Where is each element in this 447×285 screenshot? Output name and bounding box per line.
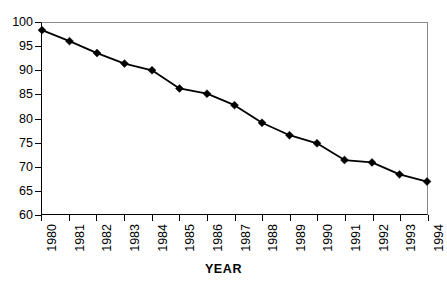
x-tick-label: 1986 [212, 224, 225, 252]
x-tick-label: 1984 [157, 224, 170, 252]
x-tick-mark [207, 215, 208, 221]
x-tick-mark [290, 215, 291, 221]
x-tick-mark [317, 215, 318, 221]
x-tick-mark [124, 215, 125, 221]
x-tick-mark [179, 215, 180, 221]
x-tick-mark [69, 215, 70, 221]
x-tick-label: 1980 [46, 224, 59, 252]
x-tick-label: 1992 [378, 224, 391, 252]
x-axis: 1980198119821983198419851986198719881989… [0, 0, 447, 285]
x-tick-label: 1982 [101, 224, 114, 252]
x-tick-label: 1994 [433, 224, 446, 252]
line-chart: 6065707580859095100 19801981198219831984… [0, 0, 447, 285]
x-tick-mark [96, 215, 97, 221]
x-tick-mark [400, 215, 401, 221]
x-tick-label: 1988 [267, 224, 280, 252]
x-tick-label: 1983 [129, 224, 142, 252]
x-tick-mark [262, 215, 263, 221]
x-tick-mark [428, 215, 429, 221]
x-tick-label: 1989 [295, 224, 308, 252]
x-axis-title: YEAR [0, 262, 447, 276]
x-tick-mark [41, 215, 42, 221]
x-tick-mark [373, 215, 374, 221]
x-tick-label: 1990 [322, 224, 335, 252]
x-tick-label: 1993 [405, 224, 418, 252]
x-tick-mark [235, 215, 236, 221]
x-tick-label: 1987 [240, 224, 253, 252]
x-tick-mark [345, 215, 346, 221]
x-tick-label: 1991 [350, 224, 363, 252]
x-tick-label: 1981 [74, 224, 87, 252]
x-tick-label: 1985 [184, 224, 197, 252]
x-tick-mark [152, 215, 153, 221]
